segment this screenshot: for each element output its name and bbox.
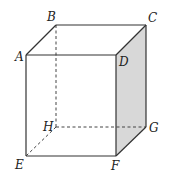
edge-ab bbox=[26, 25, 56, 55]
cube-diagram: A B C D E F G H bbox=[0, 0, 175, 188]
label-b: B bbox=[46, 10, 56, 24]
label-a: A bbox=[14, 50, 24, 64]
cube-figure: A B C D E F G H bbox=[0, 0, 175, 188]
label-c: C bbox=[148, 11, 157, 25]
label-e: E bbox=[14, 158, 24, 172]
label-g: G bbox=[149, 121, 159, 135]
label-h: H bbox=[42, 120, 54, 134]
label-d: D bbox=[118, 55, 129, 69]
shaded-face-dcgf bbox=[116, 25, 146, 156]
label-f: F bbox=[110, 159, 120, 173]
